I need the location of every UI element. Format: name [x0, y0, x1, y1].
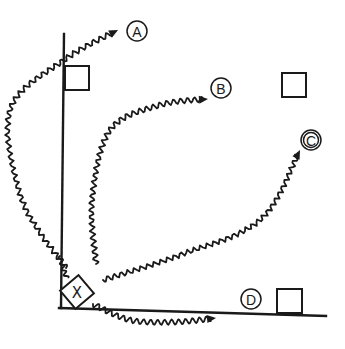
box-d	[277, 289, 302, 313]
source-x: X	[60, 275, 94, 309]
label-text: B	[216, 81, 225, 97]
arrowhead-icon	[108, 30, 118, 38]
label-text: C	[306, 133, 316, 149]
wave-d	[93, 304, 211, 325]
box-b	[282, 73, 306, 97]
label-text: A	[132, 24, 142, 40]
arrowhead-icon	[199, 96, 208, 104]
wave-a	[5, 32, 112, 268]
arrowhead-icon	[207, 315, 216, 323]
label-b: B	[211, 78, 231, 98]
label-c: C	[301, 130, 321, 150]
label-text: D	[246, 292, 256, 308]
wave-paths	[5, 30, 300, 325]
box-a	[65, 66, 89, 90]
source-label: X	[72, 284, 82, 302]
label-d: D	[241, 289, 261, 309]
target-labels: ABCD	[127, 21, 321, 309]
corner-wave-diagram: X ABCD	[0, 0, 345, 349]
wave-b	[89, 97, 202, 264]
diagram-canvas: X ABCD	[0, 0, 345, 349]
wave-c	[103, 155, 298, 282]
label-a: A	[127, 21, 147, 41]
